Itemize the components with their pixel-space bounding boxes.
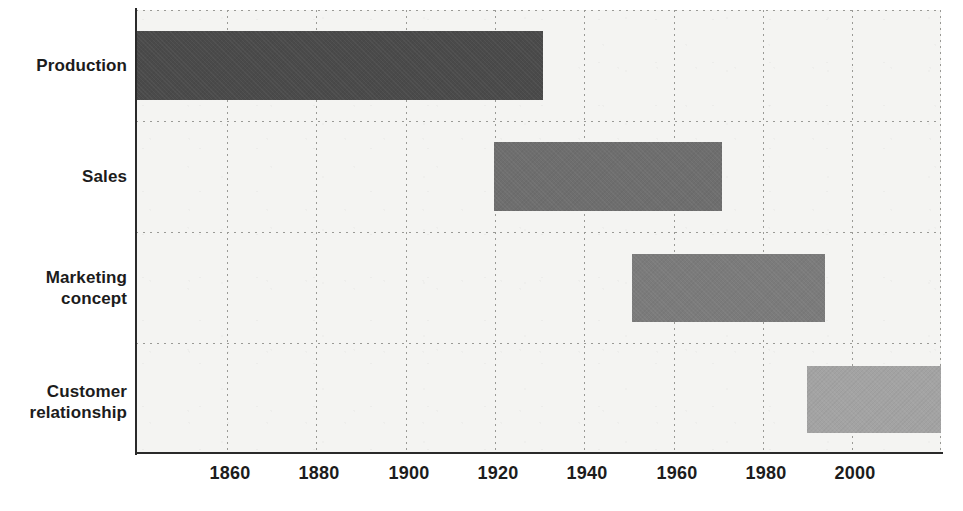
bar-texture [494,142,722,211]
vertical-gridline-1980 [763,10,764,453]
bar-marketing-concept [632,254,824,322]
horizontal-gridline [136,343,941,344]
bar-sales [494,142,722,211]
xtick-label-1980: 1980 [746,462,787,484]
bar-texture [136,31,543,100]
category-label-marketing-concept: Marketing concept [0,267,127,309]
x-axis-line [135,452,943,454]
bar-texture [632,254,824,322]
xtick-label-1900: 1900 [389,462,430,484]
horizontal-gridline [136,10,941,11]
vertical-gridline-1940 [584,10,585,453]
horizontal-gridline [136,232,941,233]
bar-customer-relationship [807,366,941,433]
y-axis-line [135,8,137,455]
xtick-label-1940: 1940 [567,462,608,484]
bar-texture [807,366,941,433]
vertical-gridline-1960 [674,10,675,453]
xtick-label-1960: 1960 [657,462,698,484]
xtick-label-2000: 2000 [835,462,876,484]
category-label-sales: Sales [0,166,127,187]
category-label-customer-relationship: Customer relationship [0,381,127,423]
horizontal-gridline [136,121,941,122]
xtick-label-1880: 1880 [299,462,340,484]
timeline-bar-chart: Production Sales Marketing concept Custo… [0,0,963,511]
xtick-label-1920: 1920 [478,462,519,484]
xtick-label-1860: 1860 [210,462,251,484]
bar-production [136,31,543,100]
category-label-production: Production [0,55,127,76]
